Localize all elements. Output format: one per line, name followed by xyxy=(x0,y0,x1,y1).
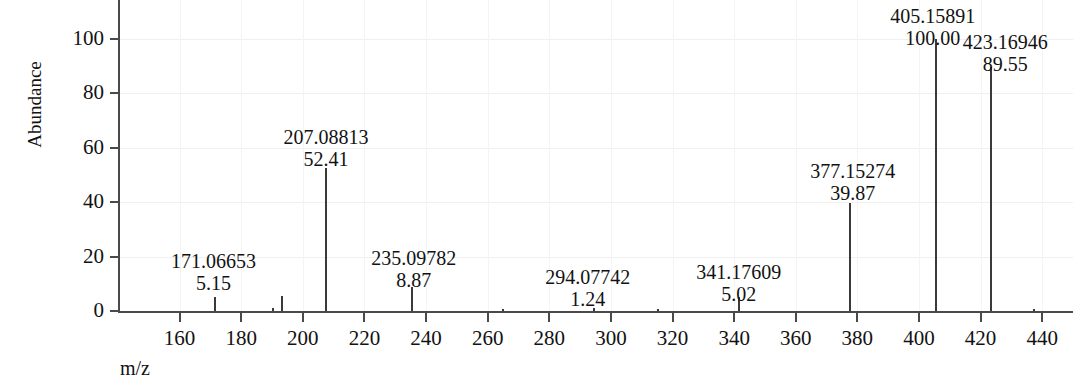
peak-mz-value: 235.09782 xyxy=(354,247,474,269)
x-axis-tick xyxy=(302,313,304,322)
peak-abundance-value: 5.02 xyxy=(679,283,799,305)
x-axis-tick-label: 220 xyxy=(334,327,394,350)
x-axis-tick xyxy=(487,313,489,322)
plot-area: 171.066535.15207.0881352.41235.097828.87… xyxy=(118,0,1073,312)
y-axis-tick xyxy=(110,256,119,258)
x-axis-tick xyxy=(672,313,674,322)
peak-label: 235.097828.87 xyxy=(354,247,474,291)
x-axis-tick-label: 260 xyxy=(458,327,518,350)
peak-mz-value: 294.07742 xyxy=(528,266,648,288)
peak-abundance-value: 39.87 xyxy=(793,182,913,204)
peak-label: 171.066535.15 xyxy=(154,250,274,294)
x-axis-tick xyxy=(795,313,797,322)
x-axis-tick xyxy=(240,313,242,322)
peak-mz-value: 207.08813 xyxy=(266,126,386,148)
spectrum-peak xyxy=(849,203,851,311)
y-axis-tick-label: 100 xyxy=(48,28,104,49)
y-axis-title: Abundance xyxy=(25,45,44,165)
x-axis-tick-label: 340 xyxy=(704,327,764,350)
x-axis-tick-label: 200 xyxy=(273,327,333,350)
x-axis-tick xyxy=(179,313,181,322)
y-axis-tick-label: 0 xyxy=(48,300,104,321)
y-axis-tick xyxy=(110,201,119,203)
y-axis-tick-label: 20 xyxy=(48,246,104,267)
x-axis-tick-label: 360 xyxy=(766,327,826,350)
peak-label: 377.1527439.87 xyxy=(793,160,913,204)
y-axis-tick xyxy=(110,147,119,149)
y-axis-tick-label: 80 xyxy=(48,82,104,103)
gridline-vertical xyxy=(488,0,489,312)
peak-label: 341.176095.02 xyxy=(679,261,799,305)
x-axis-tick-label: 320 xyxy=(643,327,703,350)
x-axis-tick-label: 420 xyxy=(951,327,1011,350)
x-axis-tick-label: 400 xyxy=(889,327,949,350)
x-axis-tick xyxy=(1041,313,1043,322)
peak-abundance-value: 1.24 xyxy=(528,288,648,310)
spectrum-peak xyxy=(214,297,216,311)
spectrum-peak xyxy=(935,39,937,311)
gridline-horizontal xyxy=(118,202,1073,203)
x-axis-tick xyxy=(548,313,550,322)
x-axis-tick-label: 160 xyxy=(150,327,210,350)
peak-mz-value: 423.16946 xyxy=(945,31,1065,53)
peak-label: 207.0881352.41 xyxy=(266,126,386,170)
x-axis-tick xyxy=(856,313,858,322)
peak-abundance-value: 89.55 xyxy=(945,53,1065,75)
peak-label: 294.077421.24 xyxy=(528,266,648,310)
gridline-vertical xyxy=(857,0,858,312)
x-axis-tick-label: 180 xyxy=(211,327,271,350)
x-axis-tick xyxy=(733,313,735,322)
peak-mz-value: 171.06653 xyxy=(154,250,274,272)
peak-mz-value: 341.17609 xyxy=(679,261,799,283)
gridline-horizontal xyxy=(118,93,1073,94)
gridline-vertical xyxy=(673,0,674,312)
peak-abundance-value: 5.15 xyxy=(154,272,274,294)
spectrum-peak xyxy=(325,168,327,311)
x-axis-tick-label: 380 xyxy=(827,327,887,350)
y-axis-tick xyxy=(110,38,119,40)
y-axis-tick xyxy=(110,92,119,94)
gridline-horizontal xyxy=(118,148,1073,149)
y-axis-tick-label: 40 xyxy=(48,191,104,212)
x-axis-tick-label: 440 xyxy=(1012,327,1072,350)
x-axis-tick xyxy=(918,313,920,322)
y-axis-line xyxy=(118,0,120,313)
x-axis-tick xyxy=(363,313,365,322)
x-axis-tick-label: 280 xyxy=(519,327,579,350)
x-axis-tick xyxy=(610,313,612,322)
peak-abundance-value: 8.87 xyxy=(354,269,474,291)
spectrum-peak xyxy=(990,67,992,311)
peak-mz-value: 377.15274 xyxy=(793,160,913,182)
x-axis-tick xyxy=(425,313,427,322)
peak-abundance-value: 52.41 xyxy=(266,148,386,170)
x-axis-tick-label: 300 xyxy=(581,327,641,350)
x-axis-tick-label: 240 xyxy=(396,327,456,350)
peak-mz-value: 405.15891 xyxy=(873,5,993,27)
x-axis-line xyxy=(118,311,1073,313)
y-axis-tick-label: 60 xyxy=(48,137,104,158)
x-axis-title: m/z xyxy=(120,358,150,378)
y-axis-tick xyxy=(110,310,119,312)
spectrum-peak xyxy=(281,296,283,311)
mass-spectrum-figure: 171.066535.15207.0881352.41235.097828.87… xyxy=(0,0,1083,385)
peak-label: 423.1694689.55 xyxy=(945,31,1065,75)
x-axis-tick xyxy=(980,313,982,322)
